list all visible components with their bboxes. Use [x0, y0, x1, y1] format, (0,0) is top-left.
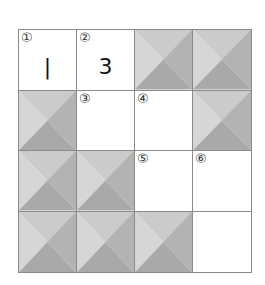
shaded-block-icon [19, 91, 76, 151]
shaded-block-icon [135, 212, 192, 273]
shaded-cell [135, 30, 193, 91]
cell-value [77, 105, 134, 151]
shaded-cell [193, 30, 251, 91]
cell-value [135, 165, 192, 211]
shaded-block-icon [193, 30, 251, 90]
open-cell[interactable] [193, 212, 251, 273]
clue-number: ② [79, 31, 91, 44]
cell-value [135, 105, 192, 151]
shaded-block-icon [77, 151, 134, 211]
cell-value [193, 226, 251, 273]
clue-number: ③ [79, 92, 91, 105]
shaded-cell [19, 91, 77, 152]
cell-value: | [19, 44, 76, 90]
shaded-block-icon [77, 212, 134, 273]
shaded-cell [19, 212, 77, 273]
crossword-grid: ①|②3③④⑤⑥ [18, 29, 252, 273]
clue-number: ④ [137, 92, 149, 105]
open-cell[interactable]: ⑤ [135, 151, 193, 212]
shaded-cell [77, 212, 135, 273]
shaded-block-icon [19, 151, 76, 211]
clue-number: ① [21, 31, 33, 44]
open-cell[interactable]: ④ [135, 91, 193, 152]
shaded-block-icon [193, 91, 251, 151]
shaded-cell [77, 151, 135, 212]
clue-number: ⑥ [195, 152, 207, 165]
cell-value: 3 [77, 44, 134, 90]
shaded-block-icon [19, 212, 76, 273]
clue-number: ⑤ [137, 152, 149, 165]
shaded-cell [19, 151, 77, 212]
open-cell[interactable]: ②3 [77, 30, 135, 91]
open-cell[interactable]: ③ [77, 91, 135, 152]
shaded-cell [135, 212, 193, 273]
cell-value [193, 165, 251, 211]
shaded-block-icon [135, 30, 192, 90]
open-cell[interactable]: ①| [19, 30, 77, 91]
shaded-cell [193, 91, 251, 152]
open-cell[interactable]: ⑥ [193, 151, 251, 212]
